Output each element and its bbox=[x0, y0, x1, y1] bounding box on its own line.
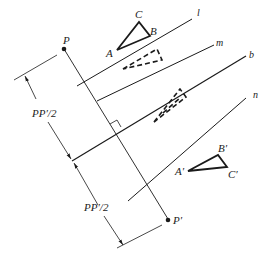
label-a: A bbox=[105, 47, 113, 59]
label-b-prime: B′ bbox=[218, 142, 228, 154]
triangle-a-b-c-prime bbox=[188, 155, 227, 171]
line-m bbox=[97, 45, 214, 101]
label-p-prime: P′ bbox=[172, 214, 183, 226]
label-a-prime: A′ bbox=[174, 165, 185, 177]
dimension-label-upper: PP′/2 bbox=[31, 107, 57, 119]
label-p: P bbox=[62, 34, 70, 46]
dimension-label-lower: PP′/2 bbox=[83, 201, 109, 213]
line-n bbox=[128, 98, 246, 201]
label-line-n: n bbox=[253, 89, 258, 100]
triangle-dashed-1 bbox=[123, 49, 162, 69]
label-b: B bbox=[150, 25, 157, 37]
label-line-b: b bbox=[249, 49, 254, 60]
reflection-diagram: P P′ l m b n A B C A′ B′ C′ PP′/2 PP′/2 bbox=[0, 0, 270, 257]
triangle-dashed-2 bbox=[154, 89, 186, 122]
dimension-line-lower-b bbox=[104, 216, 123, 245]
label-c-prime: C′ bbox=[228, 168, 238, 180]
label-line-l: l bbox=[197, 7, 200, 18]
extension-line-top bbox=[14, 55, 57, 80]
right-angle-marker bbox=[110, 120, 121, 127]
label-c: C bbox=[135, 8, 143, 20]
dimension-line-lower-a bbox=[74, 163, 98, 205]
label-line-m: m bbox=[216, 37, 223, 48]
point-p-prime bbox=[166, 218, 171, 223]
dimension-line-upper-a bbox=[25, 76, 36, 99]
dimension-line-upper-b bbox=[48, 122, 71, 159]
extension-line-bottom bbox=[117, 225, 162, 248]
point-p bbox=[62, 47, 67, 52]
